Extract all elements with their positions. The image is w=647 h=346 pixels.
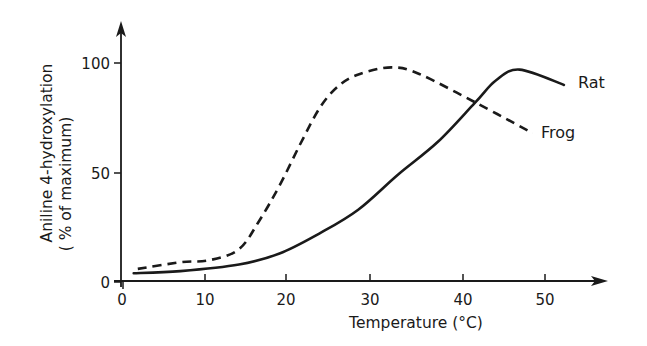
x-tick-label-50: 50 [535, 291, 554, 309]
y-tick-label-100: 100 [81, 55, 110, 73]
y-tick-label-50: 50 [91, 165, 110, 183]
x-ticks: 0 10 20 30 40 50 [117, 274, 554, 309]
x-tick-label-10: 10 [195, 291, 214, 309]
x-tick-label-40: 40 [453, 291, 472, 309]
y-axis-title-line2: ( % of maximum) [57, 117, 75, 252]
x-axis-title: Temperature (°C) [348, 314, 483, 332]
rat-series-label: Rat [578, 73, 605, 92]
axes [114, 21, 608, 287]
frog-series-line [138, 67, 533, 269]
x-tick-label-20: 20 [276, 291, 295, 309]
y-tick-label-0: 0 [100, 274, 110, 292]
y-axis-title-line1: Aniline 4-hydroxylation [38, 64, 56, 243]
frog-series-label: Frog [541, 123, 575, 142]
rat-series-line [134, 70, 564, 274]
x-tick-label-0: 0 [117, 291, 127, 309]
x-tick-label-30: 30 [360, 291, 379, 309]
line-chart: 100 50 0 0 10 20 30 40 50 Temperature (°… [0, 0, 647, 346]
y-ticks: 100 50 0 [81, 55, 121, 292]
